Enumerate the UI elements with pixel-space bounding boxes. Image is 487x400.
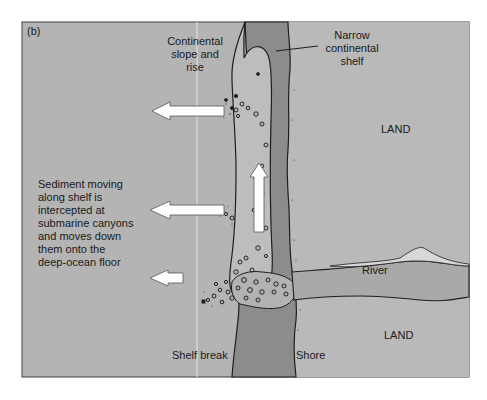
label-line: continental	[312, 42, 392, 55]
shore-label: Shore	[296, 349, 325, 362]
caption-line: along shelf is	[38, 191, 168, 204]
caption-line: them onto the	[38, 243, 168, 256]
label-line: rise	[150, 61, 240, 74]
caption-line: deep-ocean floor	[38, 256, 168, 269]
land-label-top: LAND	[381, 123, 410, 136]
land-label-bottom: LAND	[384, 329, 413, 342]
land-area	[287, 22, 469, 377]
label-line: slope and	[150, 48, 240, 61]
caption-line: Sediment moving	[38, 178, 168, 191]
narrow-shelf-label: Narrow continental shelf	[312, 29, 392, 68]
caption-line: and moves down	[38, 230, 168, 243]
shelf-break-label: Shelf break	[172, 349, 228, 362]
diagram-canvas: (b) Continental slope and rise Narrow co…	[0, 0, 487, 400]
label-line: Narrow	[312, 29, 392, 42]
caption-line: intercepted at	[38, 204, 168, 217]
sediment-caption: Sediment moving along shelf is intercept…	[38, 178, 168, 269]
label-line: Continental	[150, 35, 240, 48]
label-line: shelf	[312, 55, 392, 68]
continental-slope-label: Continental slope and rise	[150, 35, 240, 74]
caption-line: submarine canyons	[38, 217, 168, 230]
river-label: River	[362, 264, 388, 277]
panel-label: (b)	[27, 25, 40, 38]
